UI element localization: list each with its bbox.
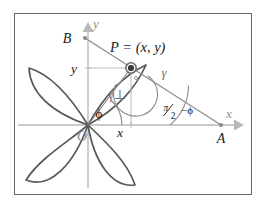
point-A-dot	[219, 123, 223, 127]
label-gamma: γ	[161, 65, 167, 80]
geometry-diagram-svg: B P = (x, y) A O x y y x ϕ γ γ⊥ π 2 −ϕ	[0, 0, 267, 210]
label-axis-y: y	[91, 16, 99, 31]
complement-denominator: 2	[171, 111, 176, 121]
point-P-dot	[128, 65, 134, 71]
label-point-P: P = (x, y)	[109, 39, 166, 56]
figure-root: B P = (x, y) A O x y y x ϕ γ γ⊥ π 2 −ϕ	[0, 0, 267, 210]
label-point-B: B	[63, 31, 72, 46]
label-angle-phi: ϕ	[96, 106, 103, 121]
label-point-A: A	[216, 131, 226, 146]
label-axis-x: x	[225, 106, 232, 121]
complement-numerator: π	[164, 103, 169, 113]
label-y-projection: y	[69, 61, 77, 76]
complement-suffix: −ϕ	[181, 104, 193, 116]
label-gamma-perp: γ⊥	[107, 87, 126, 102]
label-origin-O: O	[77, 129, 87, 144]
point-B-dot	[83, 36, 87, 40]
label-x-projection: x	[116, 125, 123, 140]
